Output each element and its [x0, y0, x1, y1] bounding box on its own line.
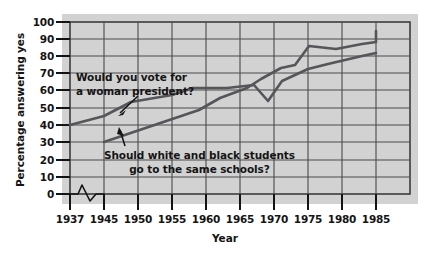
xtick-label-1985: 1985	[356, 213, 396, 225]
x-axis-title: Year	[180, 232, 270, 244]
annotation-same-schools-line2: go to the same schools?	[104, 162, 295, 176]
annotation-woman-president: Would you vote for a woman president?	[76, 70, 194, 98]
chart-figure: 100 90 80 70 60 50 40 30 20 10 0 1937 19…	[0, 0, 439, 253]
axis-break-symbol	[70, 185, 104, 201]
annotation-same-schools: Should white and black students go to th…	[104, 148, 295, 176]
annotation-woman-president-line2: a woman president?	[76, 84, 194, 98]
y-axis-ticks	[56, 22, 70, 194]
x-axis-ticks	[70, 194, 376, 210]
annotation-woman-president-line1: Would you vote for	[76, 70, 194, 84]
annotation-same-schools-line1: Should white and black students	[104, 148, 295, 162]
y-axis-title: Percentage answering yes	[14, 20, 26, 200]
